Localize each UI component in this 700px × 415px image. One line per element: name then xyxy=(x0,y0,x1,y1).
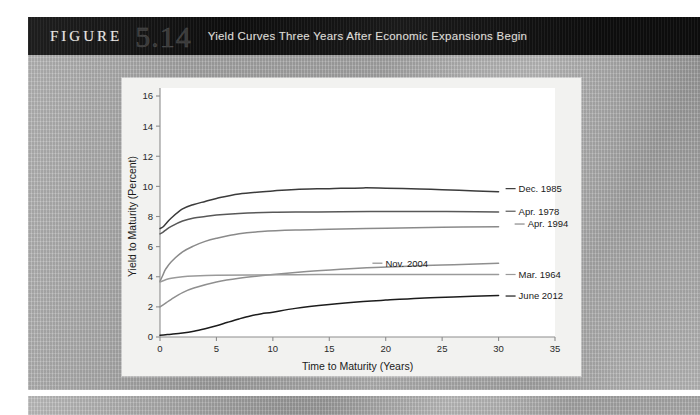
series-label: Mar. 1964 xyxy=(519,269,561,280)
figure-header-bar: FIGURE 5.14 Yield Curves Three Years Aft… xyxy=(28,17,700,55)
y-tick-label: 14 xyxy=(142,121,153,132)
x-tick-label: 25 xyxy=(437,343,448,354)
y-tick-label: 2 xyxy=(148,301,153,312)
y-tick-label: 4 xyxy=(148,271,153,282)
series-label: Nov. 2004 xyxy=(385,258,428,269)
yield-curve-chart: 024681012141605101520253035Time to Matur… xyxy=(122,78,581,376)
y-tick-label: 12 xyxy=(142,151,153,162)
figure-caption: Yield Curves Three Years After Economic … xyxy=(208,30,528,42)
background-texture-bottom xyxy=(28,396,700,415)
y-tick-label: 16 xyxy=(142,90,153,101)
x-tick-label: 0 xyxy=(157,343,162,354)
series-label: Dec. 1985 xyxy=(519,183,562,194)
x-tick-label: 20 xyxy=(380,343,391,354)
plot-area: 024681012141605101520253035Time to Matur… xyxy=(122,78,581,376)
y-tick-label: 10 xyxy=(142,181,153,192)
x-axis-title: Time to Maturity (Years) xyxy=(302,360,413,372)
figure-number: 5.14 xyxy=(135,22,192,52)
figure-page: FIGURE 5.14 Yield Curves Three Years Aft… xyxy=(0,0,700,415)
y-tick-label: 0 xyxy=(148,331,153,342)
y-axis-title: Yield to Maturity (Percent) xyxy=(126,156,138,277)
y-tick-label: 8 xyxy=(148,211,153,222)
x-tick-label: 15 xyxy=(324,343,335,354)
series-label: June 2012 xyxy=(519,290,563,301)
x-tick-label: 10 xyxy=(268,343,279,354)
series-label: Apr. 1978 xyxy=(519,206,560,217)
x-tick-label: 35 xyxy=(550,343,561,354)
chart-panel: 024681012141605101520253035Time to Matur… xyxy=(122,78,581,376)
y-tick-label: 6 xyxy=(148,241,153,252)
series-label: Apr. 1994 xyxy=(528,218,569,229)
figure-label: FIGURE xyxy=(50,28,122,45)
x-tick-label: 30 xyxy=(493,343,504,354)
x-tick-label: 5 xyxy=(214,343,219,354)
